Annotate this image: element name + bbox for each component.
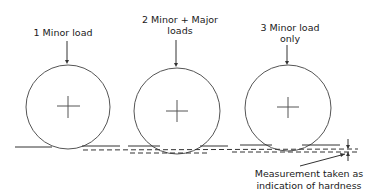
hardness-test-diagram: 1 Minor load 2 Minor + Major loads 3 Min… <box>0 0 379 193</box>
stage-3-label-line1: 3 Minor load <box>235 22 345 33</box>
stage-2-label-line2: loads <box>125 25 235 36</box>
stage-3-indenter <box>245 45 331 151</box>
caption-line1: Measurement taken as <box>240 168 378 180</box>
stage-2-label: 2 Minor + Major loads <box>125 14 235 36</box>
leader-line <box>300 154 345 166</box>
stage-1-label: 1 Minor load <box>8 27 118 38</box>
surface-lines <box>15 145 340 147</box>
stage-2-label-line1: 2 Minor + Major <box>125 14 235 25</box>
measurement-caption: Measurement taken as indication of hardn… <box>240 168 378 192</box>
depth-dashed-lines <box>83 149 358 153</box>
stage-3-label-line2: only <box>235 33 345 44</box>
stage-3-label: 3 Minor load only <box>235 22 345 44</box>
stage-2-indenter <box>134 40 220 154</box>
stage-1-indenter <box>26 41 110 149</box>
stage-1-label-line1: 1 Minor load <box>8 27 118 38</box>
caption-line2: indication of hardness <box>240 180 378 192</box>
